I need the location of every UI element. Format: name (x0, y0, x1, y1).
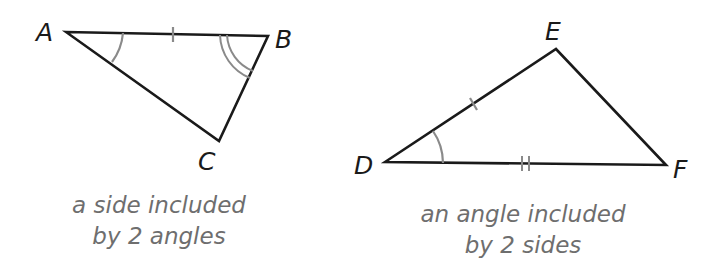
angle-d-arc (433, 131, 443, 163)
angle-b-arc-inner (227, 35, 253, 71)
figure-2-caption-line-1: an angle included (420, 201, 625, 227)
triangle-def-outline (385, 49, 666, 165)
diagram-svg: A B C a side included by 2 angles D E F … (0, 0, 715, 274)
vertex-f-label: F (673, 155, 688, 184)
vertex-e-label: E (545, 17, 561, 46)
figure-1-caption-line-1: a side included (72, 192, 246, 218)
figure-1-caption-line-2: by 2 angles (92, 223, 225, 249)
figure-2-caption-line-2: by 2 sides (465, 232, 582, 258)
diagram-canvas: A B C a side included by 2 angles D E F … (0, 0, 715, 274)
vertex-b-label: B (275, 25, 292, 54)
angle-a-arc (112, 33, 123, 62)
vertex-d-label: D (354, 151, 373, 180)
triangle-abc-outline (66, 32, 268, 141)
triangle-abc: A B C a side included by 2 angles (34, 18, 292, 249)
triangle-def: D E F an angle included by 2 sides (354, 17, 688, 258)
vertex-c-label: C (198, 147, 216, 176)
vertex-a-label: A (34, 18, 53, 47)
